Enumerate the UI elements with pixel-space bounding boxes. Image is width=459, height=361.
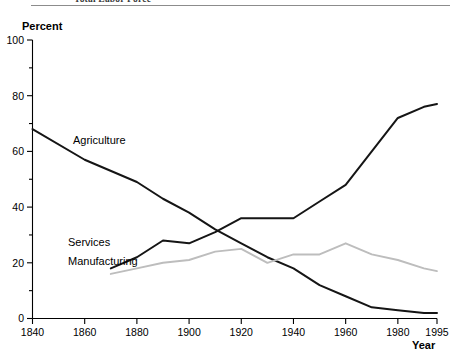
x-tick-label: 1980	[386, 326, 410, 338]
x-tick-label: 1940	[282, 326, 306, 338]
series-label-agriculture: Agriculture	[73, 134, 126, 146]
x-tick-label: 1840	[21, 326, 45, 338]
x-axis: 184018601880190019201940196019801995	[21, 319, 449, 338]
y-tick-label: 80	[12, 90, 24, 102]
series-label-group: AgricultureServicesManufacturing	[68, 134, 138, 267]
series-line-services	[111, 104, 437, 268]
y-tick-label: 100	[6, 34, 24, 46]
y-tick-label: 40	[12, 201, 24, 213]
y-tick-label: 60	[12, 145, 24, 157]
chart-figure: Total Labor Force Percent Year 020406080…	[0, 0, 459, 361]
y-tick-label: 20	[12, 257, 24, 269]
y-axis: 020406080100	[6, 34, 32, 325]
series-line-manufacturing	[111, 243, 437, 274]
x-tick-label: 1900	[177, 326, 201, 338]
x-tick-label: 1960	[334, 326, 358, 338]
series-label-manufacturing: Manufacturing	[68, 255, 138, 267]
x-tick-label: 1860	[73, 326, 97, 338]
y-tick-label: 0	[18, 312, 24, 324]
x-tick-label: 1880	[125, 326, 149, 338]
plot-area: 020406080100 184018601880190019201940196…	[0, 0, 459, 361]
x-tick-label: 1995	[425, 326, 449, 338]
x-tick-label: 1920	[230, 326, 254, 338]
series-label-services: Services	[68, 236, 111, 248]
